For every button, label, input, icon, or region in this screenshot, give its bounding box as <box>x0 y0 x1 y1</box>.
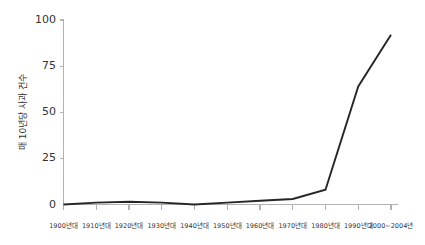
y-axis-tick-label: 0 <box>49 198 56 211</box>
x-axis-tick-label: 1920년대 <box>115 221 144 230</box>
data-series-line <box>64 35 392 205</box>
x-axis-tick-label: 1940년대 <box>180 221 209 230</box>
chart-canvas: 매 10년당 사과 건수 0255075100 1900년대1910년대1920… <box>0 0 425 245</box>
x-axis-tick-label: 1900년대 <box>49 221 78 230</box>
y-axis-tick-label: 25 <box>42 151 56 164</box>
x-axis-tick-label: 1910년대 <box>82 221 111 230</box>
x-axis-tick-label: 1970년대 <box>278 221 307 230</box>
x-axis-tick-label: 1980년대 <box>311 221 340 230</box>
x-axis-tick-label: 1960년대 <box>246 221 275 230</box>
y-axis-title: 매 10년당 사과 건수 <box>18 74 28 150</box>
x-axis-tick-label: 1950년대 <box>213 221 242 230</box>
x-axis-tick-label: 2000~2004년 <box>369 221 414 230</box>
x-axis-tick-label: 1930년대 <box>147 221 176 230</box>
y-axis-tick-label: 100 <box>35 13 56 26</box>
y-axis-title-group: 매 10년당 사과 건수 <box>18 74 28 150</box>
line-chart: 매 10년당 사과 건수 0255075100 1900년대1910년대1920… <box>0 0 425 245</box>
y-axis-tick-marks <box>60 20 64 158</box>
y-axis-tick-label: 50 <box>42 105 56 118</box>
x-axis-tick-marks <box>64 205 392 210</box>
y-axis-tick-label: 75 <box>42 59 56 72</box>
y-axis-tick-labels: 0255075100 <box>35 13 56 211</box>
x-axis-tick-labels: 1900년대1910년대1920년대1930년대1940년대1950년대1960… <box>49 221 413 230</box>
